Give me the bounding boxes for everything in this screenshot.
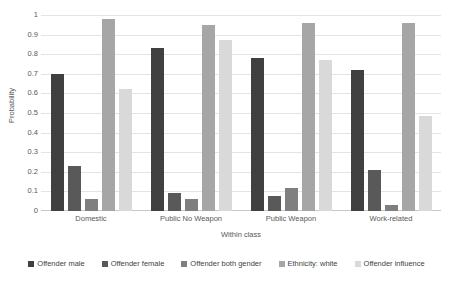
legend-label: Offender male (37, 259, 84, 268)
bar-group-bars (251, 15, 332, 211)
bar[interactable] (168, 193, 181, 211)
y-axis-tick-label: 0.9 (28, 31, 38, 39)
legend-swatch-icon (102, 261, 108, 267)
legend-item[interactable]: Ethnicity: white (279, 259, 338, 268)
bar[interactable] (368, 170, 381, 211)
bar-groups (41, 15, 441, 211)
y-axis-tick-label: 0.5 (28, 109, 38, 117)
y-axis-tick-label: 0 (34, 207, 38, 215)
y-axis-tick-label: 0.1 (28, 188, 38, 196)
legend-swatch-icon (28, 261, 34, 267)
legend-label: Ethnicity: white (288, 259, 338, 268)
y-axis-tick-label: 0.4 (28, 129, 38, 137)
legend-swatch-icon (181, 261, 187, 267)
legend-label: Offender both gender (190, 259, 261, 268)
bar[interactable] (119, 89, 132, 211)
y-axis-title-text: Probability (8, 87, 17, 122)
bar[interactable] (68, 166, 81, 211)
bar[interactable] (151, 48, 164, 211)
y-axis-tick-label: 0.3 (28, 148, 38, 156)
x-axis-tick-label: Public No Weapon (141, 214, 241, 228)
bar[interactable] (251, 58, 264, 211)
bar-chart: Probability 10.90.80.70.60.50.40.30.20.1… (0, 0, 453, 285)
bar-group (41, 15, 141, 211)
bar[interactable] (351, 70, 364, 211)
bar-group-bars (151, 15, 232, 211)
legend-swatch-icon (279, 261, 285, 267)
bar[interactable] (302, 23, 315, 211)
bar[interactable] (102, 19, 115, 211)
legend-item[interactable]: Offender male (28, 259, 84, 268)
x-axis-tick-label: Domestic (41, 214, 141, 228)
y-axis-tick-label: 0.2 (28, 168, 38, 176)
bar[interactable] (319, 60, 332, 211)
y-axis-title: Probability (5, 0, 19, 210)
plot-wrapper: Probability 10.90.80.70.60.50.40.30.20.1… (0, 0, 453, 245)
y-axis-tick-label: 0.7 (28, 70, 38, 78)
bar-group (241, 15, 341, 211)
x-axis-tick-label: Public Weapon (241, 214, 341, 228)
legend-item[interactable]: Offender both gender (181, 259, 261, 268)
bar-group (141, 15, 241, 211)
y-axis-tick-label: 0.8 (28, 50, 38, 58)
bar-group-bars (351, 15, 432, 211)
bar[interactable] (202, 25, 215, 211)
legend-swatch-icon (355, 261, 361, 267)
chart-legend: Offender maleOffender femaleOffender bot… (0, 259, 453, 268)
bar[interactable] (185, 199, 198, 211)
bar-group-bars (51, 15, 132, 211)
bar[interactable] (219, 40, 232, 211)
legend-label: Offender female (111, 259, 165, 268)
legend-label: Offender influence (364, 259, 425, 268)
bar[interactable] (285, 188, 298, 211)
bar[interactable] (51, 74, 64, 211)
x-axis-tick-labels: DomesticPublic No WeaponPublic WeaponWor… (41, 214, 441, 228)
legend-item[interactable]: Offender female (102, 259, 165, 268)
legend-item[interactable]: Offender influence (355, 259, 425, 268)
y-axis-tick-label: 0.6 (28, 90, 38, 98)
bar[interactable] (419, 116, 432, 211)
x-axis-title: Within class (41, 230, 441, 239)
plot-area (41, 15, 441, 211)
y-axis-tick-label: 1 (34, 11, 38, 19)
y-axis-tick-labels: 10.90.80.70.60.50.40.30.20.10 (18, 15, 38, 211)
x-axis-tick-label: Work-related (341, 214, 441, 228)
bar[interactable] (402, 23, 415, 211)
bar[interactable] (385, 205, 398, 211)
bar[interactable] (268, 196, 281, 211)
bar[interactable] (85, 199, 98, 211)
bar-group (341, 15, 441, 211)
